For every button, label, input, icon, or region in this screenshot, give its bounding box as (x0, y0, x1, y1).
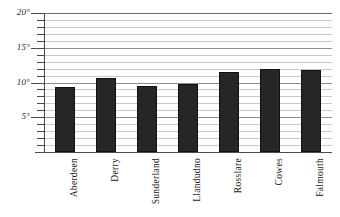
y-tick-minor (37, 124, 44, 125)
y-tick-minor (37, 110, 44, 111)
y-tick-minor (37, 69, 44, 70)
y-tick-label: 20° (6, 7, 30, 17)
bar (96, 78, 116, 152)
bar (219, 72, 239, 152)
y-tick-major (31, 13, 44, 14)
bar (137, 86, 157, 152)
y-axis-line (44, 13, 45, 153)
y-tick-minor (37, 62, 44, 63)
bar (55, 87, 75, 152)
y-tick-major (31, 83, 44, 84)
y-tick-minor (37, 145, 44, 146)
y-tick-minor (37, 96, 44, 97)
x-tick-label: Rosslare (233, 158, 243, 214)
x-tick-label: Aberdeen (69, 158, 79, 214)
gridline-major (44, 48, 332, 49)
gridline-minor (44, 55, 332, 56)
y-tick-minor (37, 34, 44, 35)
bar (178, 84, 198, 152)
y-tick-minor (37, 76, 44, 77)
y-tick-label: 15° (6, 42, 30, 52)
y-tick-label: 5° (6, 111, 30, 121)
y-tick-label: 10° (6, 77, 30, 87)
y-tick-minor (37, 20, 44, 21)
y-tick-minor (37, 131, 44, 132)
gridline-minor (44, 34, 332, 35)
y-tick-minor (37, 89, 44, 90)
bar (301, 70, 321, 152)
x-tick-label: Cowes (274, 158, 284, 214)
y-tick-minor (37, 41, 44, 42)
gridline-minor (44, 69, 332, 70)
x-tick-label: Derry (110, 158, 120, 214)
x-tick-label: Sunderland (151, 158, 161, 214)
y-tick-minor (37, 55, 44, 56)
gridline-minor (44, 27, 332, 28)
y-tick-minor (37, 138, 44, 139)
x-axis-line (35, 152, 332, 153)
y-tick-major (31, 48, 44, 49)
gridline-major (44, 13, 332, 14)
bar (260, 69, 280, 152)
y-tick-minor (37, 27, 44, 28)
gridline-minor (44, 41, 332, 42)
y-tick-major (31, 117, 44, 118)
gridline-minor (44, 76, 332, 77)
y-tick-minor (37, 103, 44, 104)
bar-chart: 5°10°15°20° AberdeenDerrySunderlandLland… (0, 0, 340, 217)
gridline-minor (44, 62, 332, 63)
x-tick-label: Falmouth (315, 158, 325, 214)
x-tick-label: Llandudno (192, 158, 202, 214)
gridline-minor (44, 20, 332, 21)
